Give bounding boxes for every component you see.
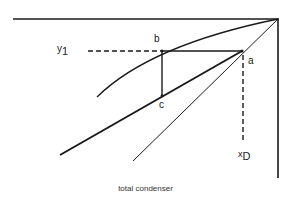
label-b: b [154, 34, 160, 44]
point-c-marker [161, 95, 164, 98]
label-xd-main: x [238, 149, 243, 159]
label-c: c [159, 100, 164, 110]
point-b-marker [161, 50, 164, 53]
label-a: a [248, 56, 254, 66]
label-xd-sub: D [243, 150, 251, 162]
mccabe-thiele-diagram [0, 0, 291, 203]
operating-line [60, 51, 242, 155]
label-xd: xD [238, 148, 250, 159]
label-y1-sub: 1 [62, 45, 68, 57]
point-a-marker [240, 49, 243, 52]
figure-caption: total condenser [0, 184, 291, 193]
label-y1: y1 [57, 43, 68, 54]
